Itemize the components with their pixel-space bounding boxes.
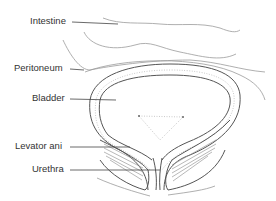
label-intestine: Intestine [30, 16, 66, 26]
urethra-left-wall [153, 158, 156, 190]
intestine-loop-top [103, 18, 240, 32]
urethra-right-wall [160, 158, 162, 190]
levator-ani-left-hatching [104, 144, 143, 180]
leader-bladder [70, 99, 116, 100]
pelvic-floor-right [168, 186, 215, 195]
intestine-loop-lower [63, 40, 265, 72]
ureteric-orifice-right [182, 116, 184, 118]
bladder-anatomy-diagram: Intestine Peritoneum Bladder Levator ani… [0, 0, 276, 201]
label-bladder: Bladder [32, 93, 65, 103]
ureteric-orifice-left [138, 115, 140, 117]
label-peritoneum: Peritoneum [14, 63, 63, 73]
leader-intestine [72, 22, 118, 24]
bladder-muscle-layer [95, 70, 234, 170]
leader-peritoneum [70, 69, 84, 70]
label-urethra: Urethra [32, 164, 64, 174]
peritoneum-line [85, 61, 265, 100]
intestine-loop-middle [84, 32, 236, 58]
label-levator-ani: Levator ani [15, 141, 62, 151]
trigone [139, 116, 183, 140]
